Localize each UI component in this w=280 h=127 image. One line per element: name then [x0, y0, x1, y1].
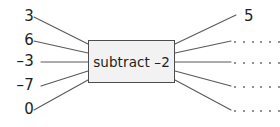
output-line-5 [175, 80, 231, 110]
ellipsis-dot [234, 41, 236, 43]
ellipsis-dot [260, 41, 262, 43]
input-line-5 [34, 80, 88, 110]
input-label-3: –3 [0, 54, 34, 69]
output-label-3-ellipsis [234, 61, 280, 64]
ellipsis-dot [278, 86, 280, 88]
ellipsis-dot [269, 41, 271, 43]
ellipsis-dot [260, 62, 262, 64]
ellipsis-dot [243, 86, 245, 88]
ellipsis-dot [278, 62, 280, 64]
ellipsis-dot [234, 86, 236, 88]
ellipsis-dot [252, 62, 254, 64]
input-label-4: –7 [0, 78, 34, 93]
ellipsis-dot [243, 41, 245, 43]
ellipsis-dot [260, 110, 262, 112]
ellipsis-dot [243, 62, 245, 64]
ellipsis-dot [260, 86, 262, 88]
ellipsis-dot [252, 86, 254, 88]
output-line-4 [175, 71, 231, 86]
output-label-2-ellipsis [234, 40, 280, 43]
input-line-2 [34, 41, 88, 53]
ellipsis-dot [234, 110, 236, 112]
output-label-4-ellipsis [234, 85, 280, 88]
ellipsis-dot [252, 110, 254, 112]
ellipsis-dot [252, 41, 254, 43]
input-line-1 [34, 17, 88, 44]
ellipsis-dot [243, 110, 245, 112]
input-label-5: 0 [0, 102, 34, 117]
ellipsis-dot [269, 62, 271, 64]
ellipsis-dot [269, 110, 271, 112]
output-label-5-ellipsis [234, 109, 280, 112]
ellipsis-dot [269, 86, 271, 88]
machine-operation-label: subtract –2 [93, 54, 170, 70]
machine-box: subtract –2 [88, 40, 175, 83]
input-label-2: 6 [0, 33, 34, 48]
function-machine-diagram: 3 6 –3 –7 0 subtract –2 5 [0, 0, 280, 127]
output-label-1: 5 [244, 9, 280, 24]
ellipsis-dot [278, 110, 280, 112]
input-label-1: 3 [0, 9, 34, 24]
ellipsis-dot [278, 41, 280, 43]
output-line-1 [175, 15, 236, 44]
ellipsis-dot [234, 62, 236, 64]
output-line-2 [175, 41, 231, 53]
